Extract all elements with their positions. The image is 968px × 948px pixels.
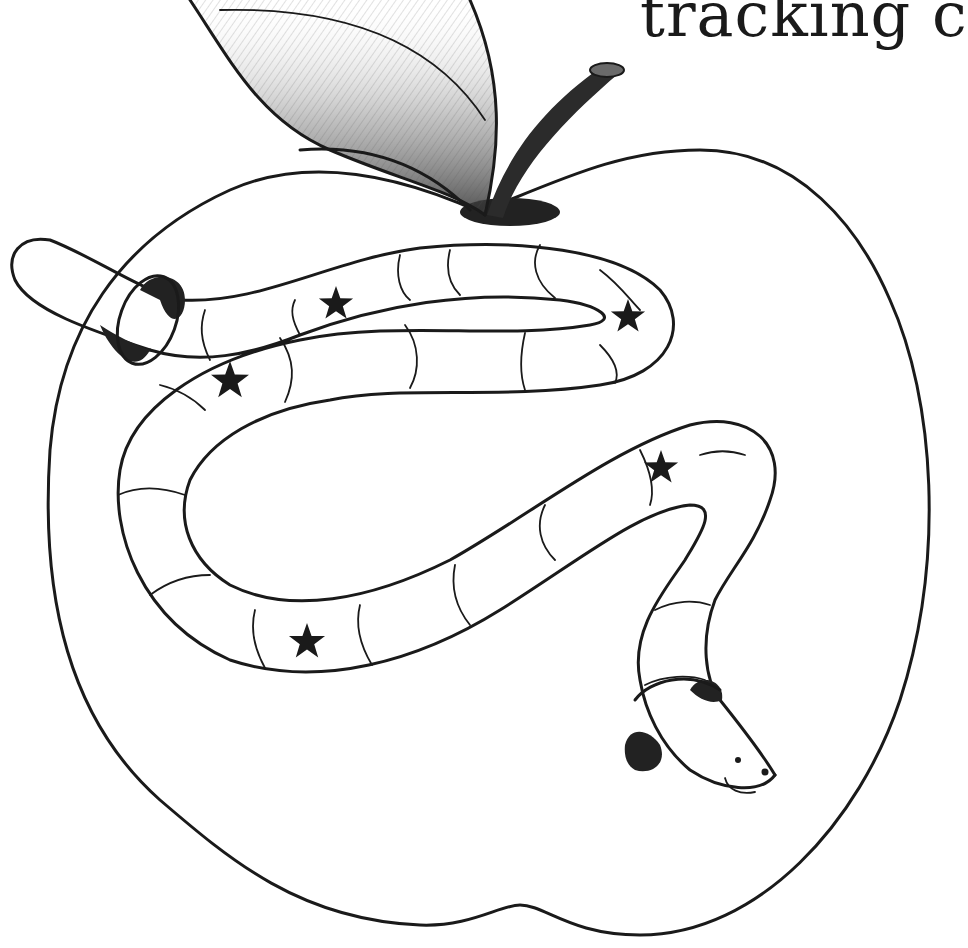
star-icon bbox=[644, 450, 678, 483]
star-icon bbox=[611, 299, 645, 332]
worm bbox=[12, 239, 775, 793]
star-icon bbox=[319, 286, 353, 319]
stem bbox=[487, 68, 618, 218]
star-icon bbox=[289, 623, 325, 657]
apple-outline bbox=[48, 150, 929, 935]
leaf bbox=[190, 0, 496, 215]
